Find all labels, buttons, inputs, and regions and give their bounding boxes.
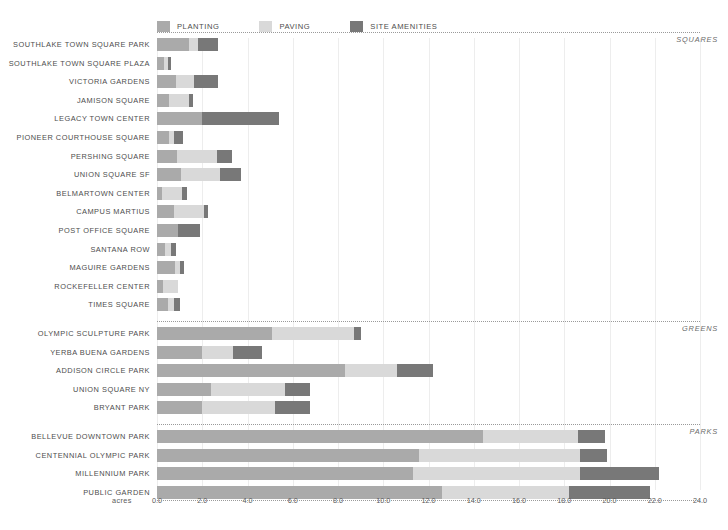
category-label: VICTORIA GARDENS [0, 75, 150, 88]
bar-row [157, 168, 700, 181]
bar-segment-planting [157, 57, 164, 70]
bar-row [157, 243, 700, 256]
section-title-parks: PARKS [689, 427, 718, 436]
category-label: TIMES SQUARE [0, 298, 150, 311]
bar-segment-amenities [217, 150, 232, 163]
category-label: BELMARTOWN CENTER [0, 187, 150, 200]
bar-segment-amenities [354, 327, 361, 340]
bar-row [157, 383, 700, 396]
legend-swatch-planting [157, 21, 170, 32]
bar-row [157, 346, 700, 359]
bar-segment-amenities [285, 383, 310, 396]
bar-segment-amenities [182, 187, 187, 200]
bar-segment-planting [157, 383, 211, 396]
bar-segment-planting [157, 38, 189, 51]
bar-segment-planting [157, 168, 181, 181]
bar-segment-planting [157, 430, 483, 443]
bar-row [157, 327, 700, 340]
bar-row [157, 187, 700, 200]
bar-segment-paving [162, 187, 182, 200]
section-divider-greens [157, 321, 700, 323]
bar-segment-planting [157, 327, 272, 340]
category-label: UNION SQUARE SF [0, 168, 150, 181]
bar-segment-planting [157, 112, 202, 125]
section-title-squares: SQUARES [676, 35, 718, 44]
section-divider-parks [157, 424, 700, 426]
category-label: SANTANA ROW [0, 243, 150, 256]
bar-segment-paving [202, 401, 274, 414]
bar-segment-planting [157, 150, 177, 163]
bar-segment-paving [483, 430, 578, 443]
plot-area [157, 38, 700, 490]
bar-segment-paving [202, 346, 233, 359]
bar-segment-planting [157, 205, 174, 218]
bar-segment-paving [181, 168, 221, 181]
bar-row [157, 205, 700, 218]
legend-item-paving: PAVING [259, 21, 310, 32]
category-label: MILLENNIUM PARK [0, 467, 150, 480]
bar-segment-amenities [180, 261, 184, 274]
legend-swatch-amenities [350, 21, 363, 32]
bar-segment-planting [157, 243, 165, 256]
category-label: ROCKEFELLER CENTER [0, 280, 150, 293]
bar-row [157, 38, 700, 51]
legend-item-planting: PLANTING [157, 21, 219, 32]
bar-segment-paving [272, 327, 353, 340]
bar-segment-planting [157, 401, 202, 414]
bar-segment-amenities [578, 430, 605, 443]
bar-segment-planting [157, 467, 413, 480]
bar-row [157, 364, 700, 377]
bar-row [157, 131, 700, 144]
bar-segment-amenities [174, 131, 183, 144]
bar-segment-amenities [580, 449, 607, 462]
axis-unit-label: acres [112, 496, 132, 505]
legend-label-paving: PAVING [279, 22, 310, 31]
category-label: CAMPUS MARTIUS [0, 205, 150, 218]
bar-segment-amenities [204, 205, 209, 218]
stacked-bar-chart: PLANTINGPAVINGSITE AMENITIES SOUTHLAKE T… [0, 0, 728, 530]
bar-segment-paving [177, 150, 217, 163]
bar-row [157, 75, 700, 88]
bar-segment-amenities [174, 298, 180, 311]
bar-row [157, 224, 700, 237]
category-label: SOUTHLAKE TOWN SQUARE PLAZA [0, 57, 150, 70]
legend-item-amenities: SITE AMENITIES [350, 21, 437, 32]
category-label: OLYMPIC SCULPTURE PARK [0, 327, 150, 340]
legend-swatch-paving [259, 21, 272, 32]
bar-segment-amenities [220, 168, 241, 181]
legend-label-planting: PLANTING [177, 22, 219, 31]
category-label: ADDISON CIRCLE PARK [0, 364, 150, 377]
bar-row [157, 57, 700, 70]
bar-segment-paving [189, 38, 198, 51]
category-label: YERBA BUENA GARDENS [0, 346, 150, 359]
bar-segment-paving [345, 364, 397, 377]
bar-segment-planting [157, 224, 178, 237]
bar-row [157, 112, 700, 125]
bar-segment-amenities [198, 38, 218, 51]
category-label: CENTENNIAL OLYMPIC PARK [0, 449, 150, 462]
bar-segment-paving [419, 449, 580, 462]
bar-segment-paving [169, 94, 189, 107]
bar-row [157, 430, 700, 443]
bar-row [157, 401, 700, 414]
bar-segment-amenities [178, 224, 199, 237]
bar-segment-paving [174, 205, 204, 218]
gridline [700, 38, 701, 490]
bar-row [157, 280, 700, 293]
category-axis-labels: SOUTHLAKE TOWN SQUARE PARKSOUTHLAKE TOWN… [0, 38, 150, 490]
bar-row [157, 449, 700, 462]
bar-row [157, 150, 700, 163]
bar-row [157, 261, 700, 274]
category-label: BELLEVUE DOWNTOWN PARK [0, 430, 150, 443]
category-label: MAGUIRE GARDENS [0, 261, 150, 274]
category-label: SOUTHLAKE TOWN SQUARE PARK [0, 38, 150, 51]
bar-segment-amenities [171, 243, 176, 256]
bar-row [157, 298, 700, 311]
bar-row [157, 94, 700, 107]
bar-segment-planting [157, 131, 169, 144]
category-label: PERSHING SQUARE [0, 150, 150, 163]
bar-segment-amenities [233, 346, 262, 359]
legend-label-amenities: SITE AMENITIES [370, 22, 437, 31]
section-divider-squares [157, 32, 700, 34]
category-label: UNION SQUARE NY [0, 383, 150, 396]
